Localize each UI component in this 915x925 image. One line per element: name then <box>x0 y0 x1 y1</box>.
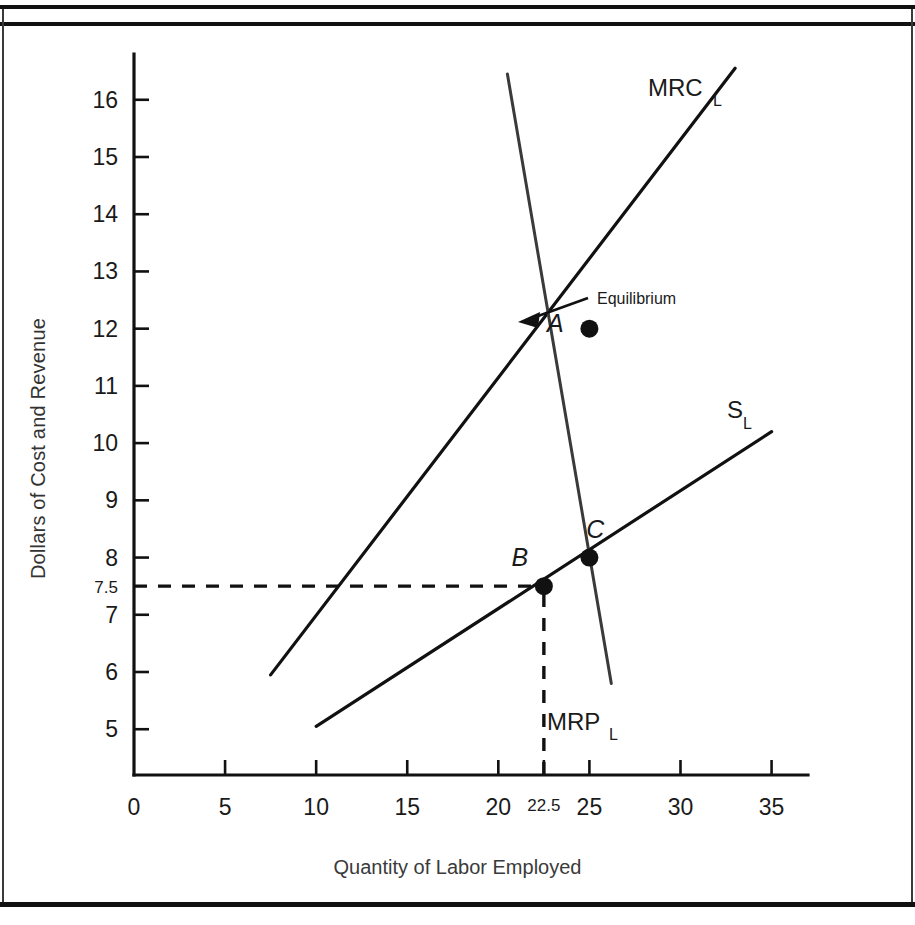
y-tick-label: 11 <box>94 373 118 399</box>
reference-lines-group <box>134 586 544 775</box>
chart-plot-area: 16151413121110987.5765 0510152022.525303… <box>0 26 915 886</box>
top-rule-outer <box>0 5 915 9</box>
data-point-c <box>580 549 598 567</box>
data-point-b <box>535 577 553 595</box>
x-tick-group: 0510152022.5253035 <box>128 760 785 820</box>
y-tick-label: 8 <box>105 545 118 571</box>
x-tick-label: 15 <box>394 794 420 820</box>
x-tick-label: 20 <box>486 794 512 820</box>
y-tick-label: 14 <box>92 201 118 227</box>
curves-group <box>271 68 772 726</box>
y-tick-label: 7 <box>105 602 118 628</box>
x-tick-label: 35 <box>759 794 785 820</box>
y-tick-group: 16151413121110987.5765 <box>92 87 149 742</box>
equilibrium-annotation-label: Equilibrium <box>597 290 676 307</box>
curve-label-mrc: MRC L <box>648 74 722 109</box>
equilibrium-arrowhead-icon <box>518 312 540 328</box>
x-tick-label: 0 <box>128 794 141 820</box>
curve-label-mrp-subscript: L <box>609 726 618 743</box>
y-tick-label: 12 <box>92 316 118 342</box>
x-tick-label: 30 <box>668 794 694 820</box>
curve-mrc-l <box>271 68 735 675</box>
curve-label-sl: S L <box>727 396 752 432</box>
curve-label-mrp-text: MRP <box>547 708 600 735</box>
data-point-a <box>580 320 598 338</box>
y-tick-label: 9 <box>105 487 118 513</box>
x-tick-label: 22.5 <box>527 796 560 815</box>
y-tick-label: 5 <box>105 716 118 742</box>
x-tick-label: 5 <box>219 794 232 820</box>
curve-label-sl-subscript: L <box>743 415 752 432</box>
x-tick-label: 25 <box>577 794 603 820</box>
x-tick-label: 10 <box>303 794 329 820</box>
curve-label-sl-text: S <box>727 396 743 423</box>
data-point-label-b: B <box>512 543 529 571</box>
y-tick-label: 15 <box>92 144 118 170</box>
curve-label-mrc-text: MRC <box>648 74 703 101</box>
curve-label-mrp: MRP L <box>547 708 618 743</box>
y-tick-label: 7.5 <box>94 578 118 597</box>
y-tick-label: 10 <box>92 430 118 456</box>
y-tick-label: 6 <box>105 659 118 685</box>
figure-frame: Dollars of Cost and Revenue Quantity of … <box>0 0 915 925</box>
data-point-label-c: C <box>586 515 605 543</box>
y-tick-label: 16 <box>92 87 118 113</box>
bottom-rule <box>0 902 915 907</box>
y-tick-label: 13 <box>92 258 118 284</box>
curve-label-mrc-subscript: L <box>713 92 722 109</box>
points-of-interest-group: ABC <box>512 309 606 596</box>
